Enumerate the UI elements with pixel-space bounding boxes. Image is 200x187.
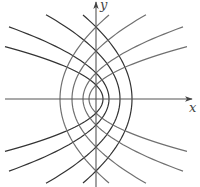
confocal-parabolas-diagram: x y	[0, 0, 200, 187]
y-axis-label: y	[99, 0, 108, 12]
x-axis-label: x	[189, 100, 197, 115]
